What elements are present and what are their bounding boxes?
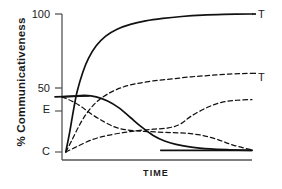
series-line-solid-from-E-decaying xyxy=(62,95,252,150)
plot-area xyxy=(0,0,282,189)
series-group xyxy=(55,14,256,152)
series-line-dashed-low-rise-hump xyxy=(66,100,252,152)
series-line-dashed-rising-to-T xyxy=(66,73,252,152)
series-line-e-level-stub xyxy=(55,96,89,97)
chart-figure: % Communicativeness TIME 100 50 E C T T xyxy=(0,0,282,189)
series-line-dashed-falling-from-E-then-plateau xyxy=(62,97,252,150)
series-line-solid-rising-to-T xyxy=(66,14,252,152)
axes-group xyxy=(55,14,252,160)
